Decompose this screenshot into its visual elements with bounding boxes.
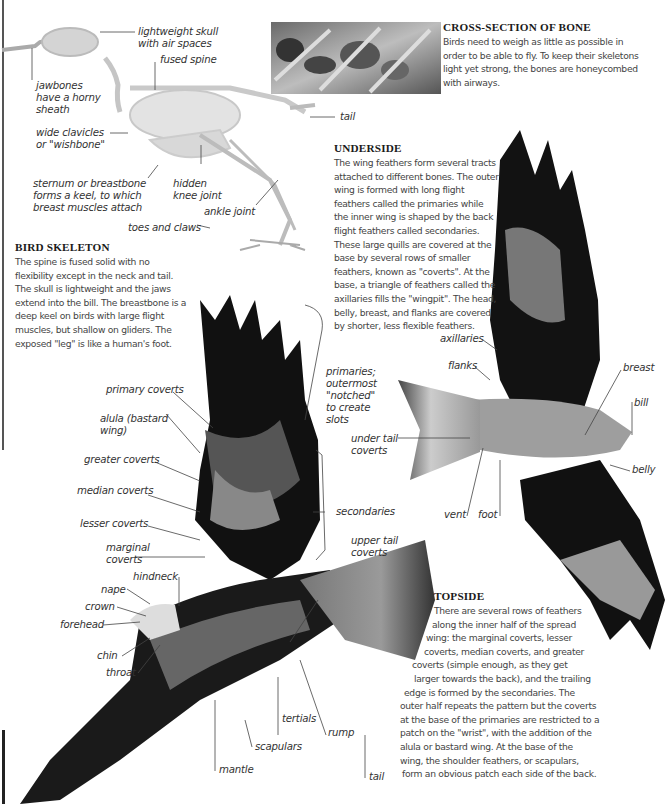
underside-heading: UNDERSIDE xyxy=(334,142,500,154)
label-median-coverts: median coverts xyxy=(77,485,153,497)
label-secondaries: secondaries xyxy=(336,506,395,518)
label-breast: breast xyxy=(623,362,654,374)
topside-line: There are several rows of feathers xyxy=(434,604,671,618)
label-axillaries: axillaries xyxy=(440,333,484,345)
label-toes-and-claws: toes and claws xyxy=(128,222,201,234)
bird-skeleton-block: BIRD SKELETON The spine is fused solid w… xyxy=(15,241,187,350)
label-alula: alula (bastardwing) xyxy=(100,413,168,437)
label-rump: rump xyxy=(328,727,354,739)
label-lesser-coverts: lesser coverts xyxy=(80,518,148,530)
underside-text: The wing feathers form several tracts at… xyxy=(334,156,500,333)
label-marginal-coverts: marginalcoverts xyxy=(106,542,150,566)
topside-line: along the inner half of the spread xyxy=(432,618,671,632)
label-chin: chin xyxy=(97,650,118,662)
cross-section-block: CROSS-SECTION OF BONE Birds need to weig… xyxy=(443,21,643,89)
label-under-tail-coverts: under tailcoverts xyxy=(351,433,398,457)
label-lightweight-skull: lightweight skullwith air spaces xyxy=(138,26,218,50)
topside-line: coverts (simple enough, as they get xyxy=(412,658,671,672)
topside-line: patch on the "wrist", with the addition … xyxy=(400,726,671,740)
topside-line: coverts, median coverts, and greater xyxy=(424,645,671,659)
topside-line: outer half repeats the pattern but the c… xyxy=(400,699,671,713)
topside-line: wing, the shoulder feathers, or scapular… xyxy=(400,754,671,768)
topside-block: TOPSIDE There are several rows of feathe… xyxy=(402,590,671,781)
label-ankle-joint: ankle joint xyxy=(204,206,255,218)
topside-line: at the base of the primaries are restric… xyxy=(400,713,671,727)
label-jawbones: jawboneshave a hornysheath xyxy=(36,80,101,116)
label-tail-topside: tail xyxy=(369,771,384,783)
topside-heading: TOPSIDE xyxy=(434,590,671,602)
topside-text: There are several rows of feathers along… xyxy=(402,604,671,781)
topside-line: form an obvious patch each side of the b… xyxy=(402,767,671,781)
cross-section-heading: CROSS-SECTION OF BONE xyxy=(443,21,643,33)
label-primaries: primaries;outermost"notched"to createslo… xyxy=(326,366,377,426)
label-foot: foot xyxy=(478,509,497,521)
cross-section-text: Birds need to weigh as little as possibl… xyxy=(443,35,643,89)
label-throat: throat xyxy=(106,667,136,679)
topside-line: larger towards the back), and the traili… xyxy=(414,672,671,686)
label-forehead: forehead xyxy=(60,619,104,631)
label-bill: bill xyxy=(634,397,648,409)
label-fused-spine: fused spine xyxy=(160,54,216,66)
topside-line: alula or bastard wing. At the base of th… xyxy=(400,740,671,754)
topside-line: wing: the marginal coverts, lesser xyxy=(426,631,671,645)
label-greater-coverts: greater coverts xyxy=(84,454,159,466)
label-tertials: tertials xyxy=(282,713,316,725)
underside-block: UNDERSIDE The wing feathers form several… xyxy=(334,142,500,333)
label-hidden-knee-joint: hiddenknee joint xyxy=(173,178,221,202)
label-upper-tail-coverts: upper tailcoverts xyxy=(351,535,398,559)
label-tail-skeleton: tail xyxy=(340,111,355,123)
label-hindneck: hindneck xyxy=(133,571,178,583)
label-sternum: sternum or breastboneforms a keel, to wh… xyxy=(33,178,146,214)
label-belly: belly xyxy=(632,464,655,476)
label-flanks: flanks xyxy=(448,360,477,372)
bird-skeleton-text: The spine is fused solid with no flexibi… xyxy=(15,255,187,350)
label-nape: nape xyxy=(101,584,126,596)
topside-line: edge is formed by the secondaries. The xyxy=(404,686,671,700)
label-wide-clavicles: wide claviclesor "wishbone" xyxy=(36,127,105,151)
label-crown: crown xyxy=(85,601,115,613)
label-primary-coverts: primary coverts xyxy=(106,384,184,396)
label-vent: vent xyxy=(444,509,466,521)
bone-cross-section-image xyxy=(271,22,441,94)
label-scapulars: scapulars xyxy=(255,741,302,753)
bird-skeleton-heading: BIRD SKELETON xyxy=(15,241,187,253)
label-mantle: mantle xyxy=(219,764,254,776)
